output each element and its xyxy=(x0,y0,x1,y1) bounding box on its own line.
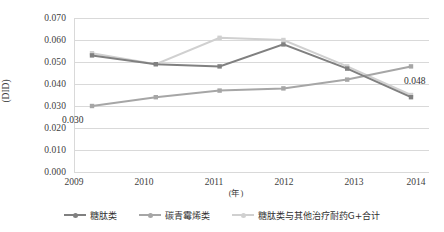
legend-swatch-icon xyxy=(232,214,254,216)
data-label-2009: 0.030 xyxy=(62,115,83,125)
chart-container: 0.070 0.060 0.050 0.040 0.030 0.020 0.01… xyxy=(0,0,444,232)
data-point-marker xyxy=(90,104,94,108)
data-point-marker xyxy=(409,95,413,99)
data-point-marker xyxy=(217,64,221,68)
series-line xyxy=(92,66,411,106)
data-point-marker xyxy=(281,42,285,46)
legend-label: 糖肽类与其他治疗耐药G+合计 xyxy=(258,209,381,222)
data-point-marker xyxy=(409,64,413,68)
series-line xyxy=(92,38,411,95)
data-point-marker xyxy=(217,36,221,40)
legend-item-2[interactable]: 糖肽类与其他治疗耐药G+合计 xyxy=(232,209,381,222)
legend-item-1[interactable]: 碳青霉烯类 xyxy=(139,209,210,222)
legend-swatch-icon xyxy=(139,214,161,216)
data-point-marker xyxy=(154,95,158,99)
data-point-marker xyxy=(345,66,349,70)
data-point-marker xyxy=(281,38,285,42)
data-point-marker xyxy=(217,88,221,92)
data-point-marker xyxy=(281,86,285,90)
legend: 糖肽类 碳青霉烯类 糖肽类与其他治疗耐药G+合计 xyxy=(0,205,444,225)
data-point-marker xyxy=(154,62,158,66)
data-point-marker xyxy=(345,77,349,81)
legend-swatch-icon xyxy=(64,214,86,216)
legend-item-0[interactable]: 糖肽类 xyxy=(64,209,117,222)
legend-label: 碳青霉烯类 xyxy=(165,209,210,222)
data-point-marker xyxy=(90,53,94,57)
data-label-2014: 0.048 xyxy=(404,76,425,86)
legend-label: 糖肽类 xyxy=(90,209,117,222)
